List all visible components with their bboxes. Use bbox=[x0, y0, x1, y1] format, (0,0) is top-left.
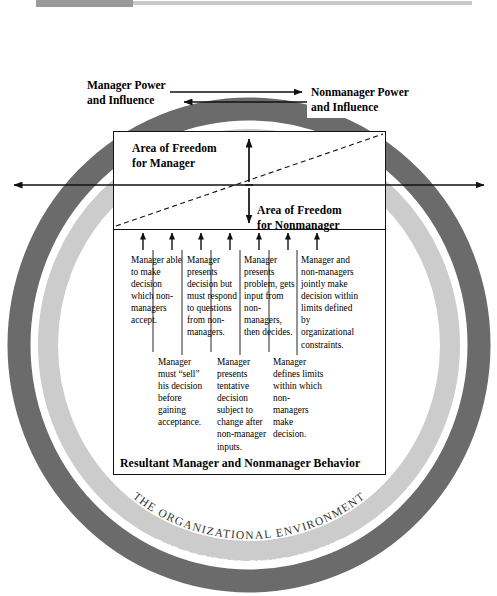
freedom-manager-line-1: Area of Freedom bbox=[132, 141, 217, 156]
freedom-area-divider bbox=[114, 229, 385, 230]
nonmanager-power-label: Nonmanager Power and Influence bbox=[307, 83, 413, 118]
behavior-item: Manager presents decision but must respo… bbox=[187, 254, 239, 339]
behavior-item: Manager able to make decision which non-… bbox=[131, 254, 183, 326]
leadership-continuum-figure: THE ORGANIZATIONAL ENVIRONMENT THE SOCIE… bbox=[0, 0, 497, 596]
resultant-behavior-caption: Resultant Manager and Nonmanager Behavio… bbox=[120, 456, 360, 471]
behavior-item: Manager defines limits within which non-… bbox=[273, 356, 325, 441]
nonmanager-power-line-2: and Influence bbox=[311, 100, 409, 115]
freedom-nonmanager-line-2: for Nonmanager bbox=[257, 218, 342, 233]
manager-power-line-2: and Influence bbox=[87, 93, 166, 108]
behavior-item: Manager must “sell” his decision before … bbox=[158, 356, 210, 428]
behavior-item: Manager and non-managers jointly make de… bbox=[301, 254, 363, 351]
area-of-freedom-manager-label: Area of Freedom for Manager bbox=[132, 141, 217, 171]
freedom-manager-line-2: for Manager bbox=[132, 156, 217, 171]
behavior-item: Manager presents tentative decision subj… bbox=[217, 356, 269, 453]
behavior-item: Manager presents problem, gets input fro… bbox=[244, 254, 296, 339]
manager-power-label: Manager Power and Influence bbox=[83, 76, 170, 111]
nonmanager-power-line-1: Nonmanager Power bbox=[311, 85, 409, 100]
freedom-nonmanager-line-1: Area of Freedom bbox=[257, 203, 342, 218]
manager-power-line-1: Manager Power bbox=[87, 78, 166, 93]
